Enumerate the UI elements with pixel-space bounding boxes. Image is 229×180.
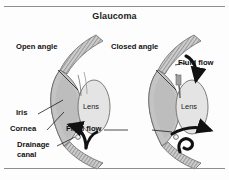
- label-cornea: Cornea: [10, 124, 36, 134]
- eye-illustrations: Open angle Lens Iris Cornea Drainage can…: [0, 20, 229, 170]
- bottom-divider-rule: [4, 168, 225, 169]
- right-fluid-flow-lower-curve: [179, 139, 193, 152]
- right-sclera-lower: [162, 142, 201, 169]
- label-drainage-canal-line1: Drainage: [17, 140, 50, 150]
- left-sclera-upper: [60, 35, 103, 74]
- right-drainage-canal-dot: [174, 135, 179, 140]
- left-drainage-canal-dot: [76, 135, 81, 140]
- label-fluid-flow-upper: Fluid flow: [178, 58, 213, 68]
- label-iris: Iris: [16, 108, 27, 118]
- glaucoma-diagram-figure: Glaucoma: [0, 0, 229, 180]
- right-angle-block: [176, 75, 181, 85]
- left-sclera-lower: [64, 142, 103, 169]
- label-fluid-flow-lower: Fluid flow: [66, 124, 101, 134]
- left-fluid-flow-tail: [86, 132, 97, 148]
- right-eye-closed-angle-illustration: [149, 35, 210, 169]
- label-open-angle: Open angle: [16, 42, 57, 52]
- label-closed-angle: Closed angle: [111, 42, 158, 52]
- label-left-lens: Lens: [83, 102, 99, 112]
- top-divider-rule: [4, 6, 225, 7]
- label-right-lens: Lens: [181, 102, 197, 112]
- label-drainage-canal-line2: canal: [17, 150, 36, 160]
